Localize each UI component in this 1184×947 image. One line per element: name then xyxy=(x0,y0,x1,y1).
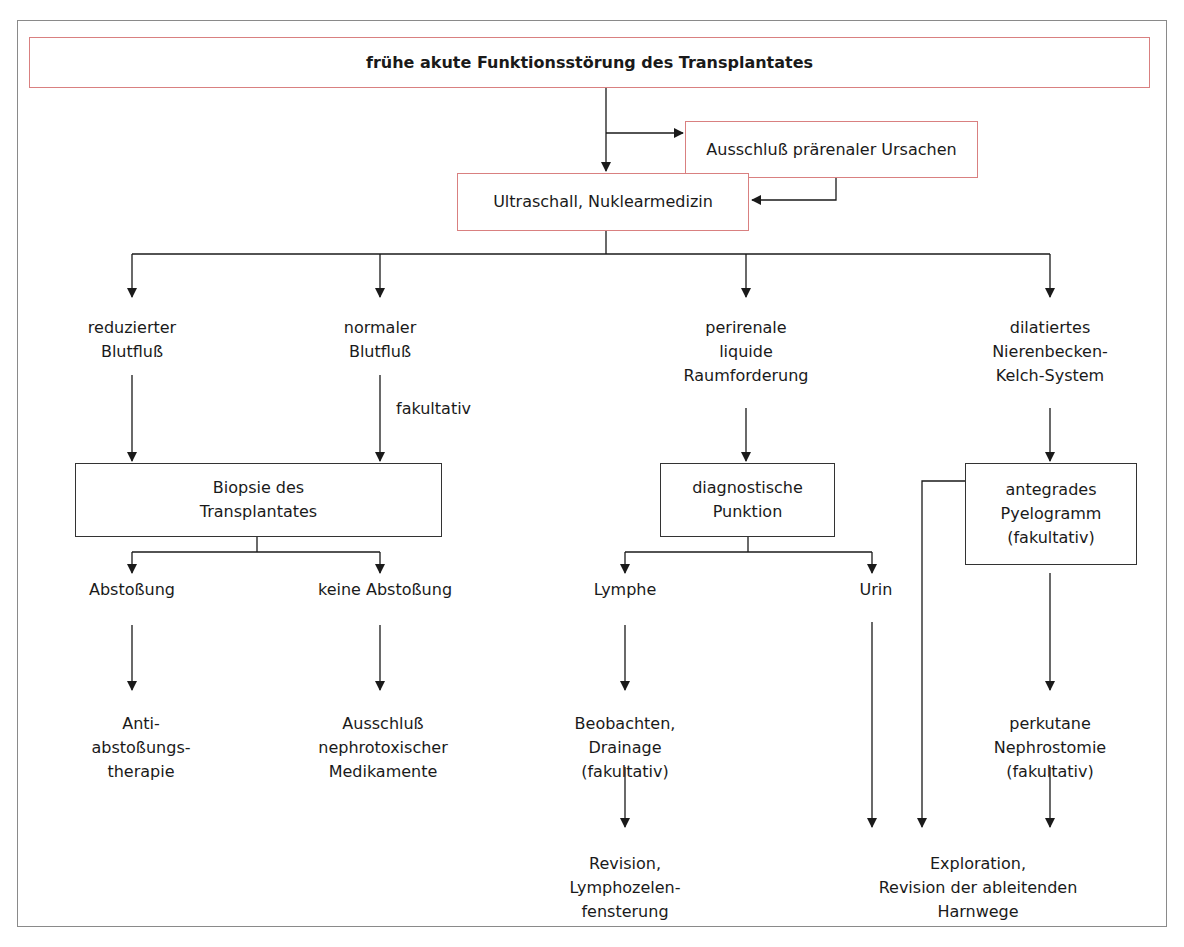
puncture-box: diagnostische Punktion xyxy=(660,463,835,537)
perirenal-label: perirenale liquide Raumforderung xyxy=(683,316,808,388)
biopsy-box: Biopsie des Transplantates xyxy=(75,463,442,537)
pyelogram-text: antegrades Pyelogramm (fakultativ) xyxy=(1001,478,1102,550)
prerenal-text: Ausschluß prärenaler Ursachen xyxy=(706,138,956,162)
rejection-label: Abstoßung xyxy=(89,578,175,602)
anti-rejection-label: Anti- abstoßungs- therapie xyxy=(92,712,191,784)
imaging-box: Ultraschall, Nuklearmedizin xyxy=(457,173,749,231)
reduced-flow-label: reduzierter Blutfluß xyxy=(88,316,176,364)
normal-flow-label: normaler Blutfluß xyxy=(344,316,416,364)
lymph-label: Lymphe xyxy=(594,578,657,602)
title-text: frühe akute Funktionsstörung des Transpl… xyxy=(366,51,813,75)
title-box: frühe akute Funktionsstörung des Transpl… xyxy=(29,37,1150,88)
optional-label: fakultativ xyxy=(396,397,471,421)
observe-drain-label: Beobachten, Drainage (fakultativ) xyxy=(575,712,676,784)
puncture-text: diagnostische Punktion xyxy=(692,476,803,524)
nephrostomy-label: perkutane Nephrostomie (fakultativ) xyxy=(994,712,1106,784)
pyelogram-box: antegrades Pyelogramm (fakultativ) xyxy=(965,463,1137,565)
exploration-label: Exploration, Revision der ableitenden Ha… xyxy=(879,852,1078,924)
urine-label: Urin xyxy=(860,578,893,602)
prerenal-box: Ausschluß prärenaler Ursachen xyxy=(685,121,978,178)
exclude-nephrotoxic-label: Ausschluß nephrotoxischer Medikamente xyxy=(318,712,447,784)
biopsy-text: Biopsie des Transplantates xyxy=(200,476,317,524)
imaging-text: Ultraschall, Nuklearmedizin xyxy=(493,190,713,214)
lymphocele-revision-label: Revision, Lymphozelen- fensterung xyxy=(569,852,680,924)
dilated-label: dilatiertes Nierenbecken- Kelch-System xyxy=(992,316,1108,388)
no-rejection-label: keine Abstoßung xyxy=(318,578,452,602)
